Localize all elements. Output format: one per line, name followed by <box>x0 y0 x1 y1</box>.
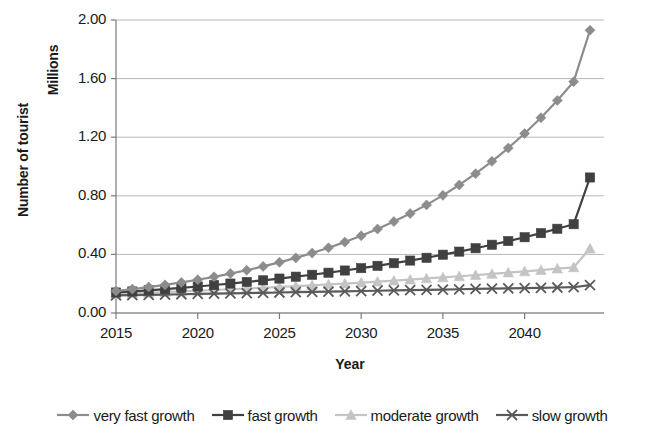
marker-fast-growth-11 <box>291 272 300 281</box>
marker-fast-growth-16 <box>373 261 382 270</box>
marker-fast-growth-28 <box>569 220 578 229</box>
marker-very-fast-growth-12 <box>307 248 317 258</box>
chart-legend: very fast growthfast growthmoderate grow… <box>0 398 664 432</box>
marker-very-fast-growth-7 <box>225 269 235 279</box>
marker-fast-growth-20 <box>438 250 447 259</box>
marker-fast-growth-7 <box>226 279 235 288</box>
marker-fast-growth-legend <box>223 410 232 419</box>
marker-very-fast-growth-18 <box>405 209 415 219</box>
series-very-fast-growth <box>111 25 595 296</box>
marker-very-fast-growth-19 <box>422 200 432 210</box>
marker-fast-growth-9 <box>259 276 268 285</box>
legend-marker-diamond-icon <box>56 407 90 423</box>
legend-marker-x-icon <box>495 407 529 423</box>
line-fast-growth <box>116 177 590 292</box>
legend-item-slow-growth[interactable]: slow growth <box>495 407 608 424</box>
marker-fast-growth-19 <box>422 253 431 262</box>
marker-very-fast-growth-15 <box>356 231 366 241</box>
marker-fast-growth-10 <box>275 274 284 283</box>
marker-very-fast-growth-legend <box>68 410 78 420</box>
legend-marker-triangle-icon <box>334 407 368 423</box>
marker-very-fast-growth-17 <box>389 217 399 227</box>
marker-very-fast-growth-8 <box>242 265 252 275</box>
legend-marker-square-icon <box>211 407 245 423</box>
marker-very-fast-growth-9 <box>258 261 268 271</box>
marker-fast-growth-8 <box>242 277 251 286</box>
marker-very-fast-growth-10 <box>274 257 284 267</box>
marker-very-fast-growth-14 <box>340 237 350 247</box>
marker-fast-growth-27 <box>553 224 562 233</box>
marker-moderate-growth-29 <box>585 243 595 253</box>
marker-fast-growth-14 <box>340 266 349 275</box>
marker-fast-growth-22 <box>471 244 480 253</box>
chart-figure: Number of tourist Millions Year 0.000.40… <box>0 0 664 445</box>
marker-very-fast-growth-29 <box>585 25 595 35</box>
marker-fast-growth-21 <box>455 247 464 256</box>
line-very-fast-growth <box>116 30 590 291</box>
series-fast-growth <box>111 173 594 297</box>
marker-very-fast-growth-13 <box>323 243 333 253</box>
marker-fast-growth-13 <box>324 268 333 277</box>
marker-fast-growth-18 <box>406 256 415 265</box>
legend-label: slow growth <box>532 407 608 424</box>
marker-fast-growth-17 <box>389 259 398 268</box>
plot-area <box>0 0 664 445</box>
legend-label: moderate growth <box>371 407 479 424</box>
legend-item-fast-growth[interactable]: fast growth <box>211 407 318 424</box>
legend-item-moderate-growth[interactable]: moderate growth <box>334 407 479 424</box>
marker-fast-growth-15 <box>357 264 366 273</box>
marker-fast-growth-12 <box>308 270 317 279</box>
marker-fast-growth-26 <box>536 229 545 238</box>
marker-fast-growth-23 <box>487 240 496 249</box>
marker-fast-growth-25 <box>520 233 529 242</box>
legend-item-very-fast-growth[interactable]: very fast growth <box>56 407 194 424</box>
legend-label: very fast growth <box>93 407 194 424</box>
marker-fast-growth-24 <box>504 236 513 245</box>
marker-very-fast-growth-16 <box>373 224 383 234</box>
marker-fast-growth-29 <box>585 173 594 182</box>
legend-label: fast growth <box>248 407 318 424</box>
